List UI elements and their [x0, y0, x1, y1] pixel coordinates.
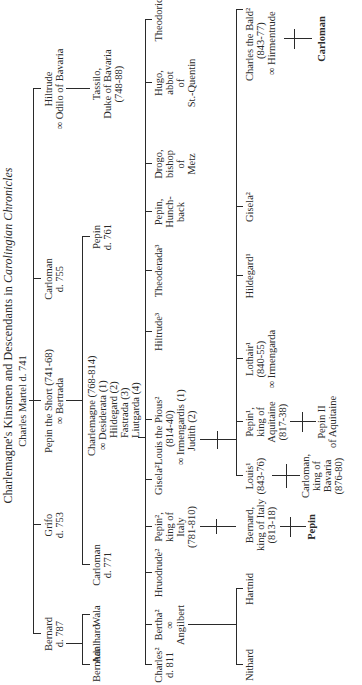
node-louis-843: Louis¹(843-76) — [244, 451, 266, 501]
node-charles-martel: Charles Martel d. 741 — [17, 346, 28, 456]
connector — [145, 270, 152, 271]
connector — [145, 211, 152, 212]
connector — [82, 615, 83, 665]
gen3-bracket — [145, 20, 146, 665]
connector — [33, 524, 41, 525]
connector — [66, 643, 82, 644]
connector — [236, 206, 243, 207]
connector — [145, 664, 152, 665]
node-hiltrude: Hiltrude∞ Odilo of Bavaria — [43, 39, 65, 139]
connector — [145, 479, 152, 480]
node-pepin-ii: Pepin IIof Aquitaine — [316, 387, 338, 457]
node-nithard: Nithard — [244, 645, 255, 685]
connector — [33, 633, 41, 634]
node-carloman-771: Carlomand. 771 — [91, 535, 113, 595]
connector — [145, 163, 152, 164]
node-pepin-761: Pepind. 761 — [91, 207, 113, 267]
connector — [188, 624, 236, 625]
connector — [82, 614, 90, 615]
connector — [66, 400, 82, 401]
connector — [294, 29, 295, 49]
connector — [33, 278, 41, 279]
connector — [236, 475, 243, 476]
connector — [236, 358, 243, 359]
node-theodoric: Theodoric — [153, 0, 164, 50]
connector — [236, 421, 243, 422]
connector — [236, 9, 243, 10]
node-theoderada: Theoderada³ — [153, 236, 164, 306]
connector — [82, 664, 90, 665]
node-tassilo: Tassilo,Duke of Bavaria(748-88) — [91, 39, 124, 129]
node-charles-811: Charles²d. 811 — [153, 645, 175, 685]
node-pepin-aquitaine: Pepin¹,king ofAquitaine(817-38) — [244, 392, 288, 452]
connector — [145, 82, 152, 83]
node-hartnid: Hartnid — [244, 564, 255, 614]
title-italic: Carolingian Chronicles — [1, 167, 15, 283]
chart-title: Charlemagne's Kinsmen and Descendants in… — [1, 0, 16, 671]
connector — [66, 88, 90, 89]
connector — [236, 664, 243, 665]
connector — [145, 526, 152, 527]
connector — [138, 437, 145, 438]
connector — [280, 526, 306, 527]
gen1-bracket — [33, 89, 34, 634]
connector — [145, 572, 152, 573]
connector — [290, 517, 291, 537]
node-pepin-gen5: Pepin — [306, 507, 317, 547]
connector — [145, 19, 152, 20]
node-hiltrude-3: Hiltrude³ — [153, 307, 164, 357]
connector — [236, 589, 237, 665]
node-louis-the-pious: Louis the Pious² (814-40) ∞ Irmengardis … — [153, 355, 197, 465]
node-pepin-hunchback: Pepin,Hunch-back — [153, 187, 186, 237]
title-text: Charlemagne's Kinsmen and Descendants in — [1, 283, 15, 504]
connector — [200, 526, 236, 527]
connector — [286, 464, 287, 488]
connector — [236, 588, 243, 589]
connector — [145, 624, 152, 625]
connector — [302, 412, 303, 432]
node-pepin-italy: Pepin²,king ofItaly(781-810) — [153, 497, 197, 557]
node-drogo: Drogo,bishopofMetz — [153, 139, 197, 189]
node-charles-the-bald: Charles the Bald² (843-77) ∞ Hirmentrude — [244, 0, 277, 81]
connector — [33, 400, 41, 401]
gen4-bracket — [236, 10, 237, 476]
node-lothair: Lothair¹(840-55)∞ Irmengarda — [244, 319, 277, 399]
node-carloman-gen5: Carloman — [316, 9, 327, 69]
node-bertha: Bertha²∞Angilbert — [153, 605, 186, 645]
connector — [236, 275, 243, 276]
connector — [82, 237, 83, 565]
node-bernard: Bernardd. 787 — [43, 604, 65, 664]
node-wala: Wala — [91, 601, 102, 631]
connector — [216, 519, 217, 534]
connector — [82, 564, 90, 565]
connector — [217, 431, 218, 449]
node-hildegard: Hildegard¹ — [244, 241, 255, 311]
connector — [82, 236, 90, 237]
connector — [33, 88, 41, 89]
node-carloman-755: Carlomand. 755 — [43, 249, 65, 309]
connector — [145, 419, 152, 420]
node-hugo: Hugo,abbotofSt.-Quentin — [153, 48, 197, 118]
node-grifo: Grifod. 753 — [43, 495, 65, 555]
node-charlemagne: Charlemagne (768-814) ∞ Desiderata (1) H… — [86, 326, 141, 456]
connector — [145, 331, 152, 332]
node-pepin-the-short: Pepin the Short (741-68)∞ Bertrada — [43, 331, 65, 471]
node-gisela-gen4: Gisela² — [244, 182, 255, 232]
connector — [284, 38, 312, 39]
